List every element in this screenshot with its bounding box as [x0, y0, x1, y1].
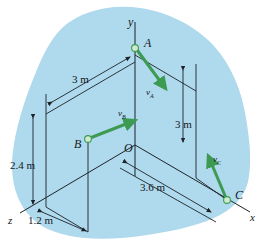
- point-marker-C: [224, 197, 231, 204]
- figure-canvas: y x z O A B C vA vB vC 3 m 3 m 2.4 m 3.6…: [0, 0, 265, 252]
- axis-label-z: z: [7, 214, 13, 226]
- vector-label-vB-subscript: B: [122, 114, 126, 120]
- point-marker-B: [85, 136, 92, 143]
- dimension-label-3m-top: 3 m: [72, 73, 89, 85]
- point-marker-A: [132, 45, 139, 52]
- vector-label-vA-subscript: A: [149, 93, 154, 99]
- point-label-B: B: [74, 137, 82, 151]
- dimension-label-3p6m: 3.6 m: [140, 181, 166, 193]
- diagram-svg: y x z O A B C vA vB vC 3 m 3 m 2.4 m 3.6…: [0, 0, 265, 252]
- axis-label-y: y: [127, 15, 134, 29]
- dimension-label-2p4m: 2.4 m: [10, 159, 36, 171]
- dimension-label-1p2m: 1.2 m: [28, 214, 54, 226]
- dimension-label-3m-right: 3 m: [175, 118, 192, 130]
- origin-label-O: O: [124, 141, 133, 155]
- point-label-A: A: [143, 36, 152, 50]
- point-label-C: C: [235, 188, 244, 202]
- axis-label-x: x: [249, 211, 255, 223]
